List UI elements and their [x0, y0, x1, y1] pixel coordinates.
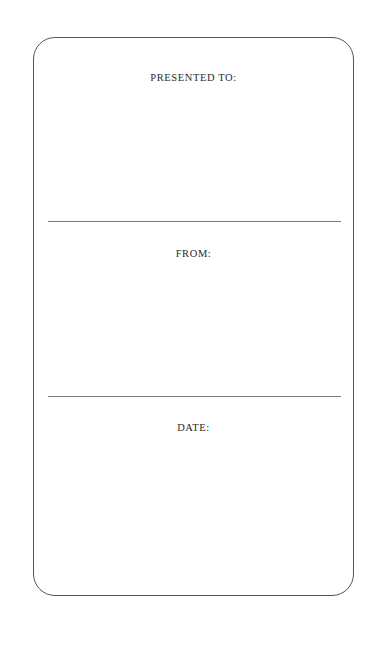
- from-field[interactable]: [49, 268, 340, 393]
- divider-line: [48, 221, 341, 222]
- date-field[interactable]: [49, 443, 340, 583]
- presented-to-field[interactable]: [49, 93, 340, 218]
- from-label: FROM:: [34, 248, 353, 260]
- presented-to-label: PRESENTED TO:: [34, 72, 353, 84]
- divider-line: [48, 396, 341, 397]
- presentation-card: PRESENTED TO: FROM: DATE:: [33, 37, 354, 596]
- date-label: DATE:: [34, 422, 353, 434]
